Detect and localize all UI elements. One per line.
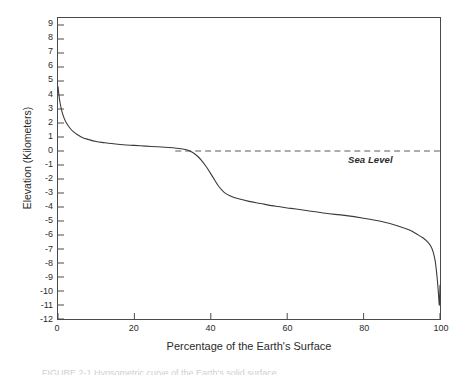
x-tick-label: 20: [129, 323, 139, 333]
x-tick-label: 60: [282, 323, 292, 333]
x-tick-label: 0: [54, 323, 59, 333]
y-tick-label: -9: [29, 273, 53, 282]
plot-area: Sea Level: [57, 17, 441, 320]
y-tick-label: -8: [29, 259, 53, 268]
y-tick-label: 9: [29, 19, 53, 28]
y-tick-label: -11: [29, 301, 53, 310]
y-tick-label: -12: [29, 315, 53, 324]
x-axis-tick-labels: 020406080100: [57, 323, 441, 337]
hypsometric-curve-line: [58, 87, 440, 306]
y-axis-title: Elevation (Kilometers): [21, 68, 33, 248]
y-tick-label: 7: [29, 47, 53, 56]
x-axis-ticks: [58, 313, 440, 319]
y-tick-label: -10: [29, 287, 53, 296]
x-tick-label: 80: [359, 323, 369, 333]
x-tick-label: 100: [433, 323, 448, 333]
sea-level-label: Sea Level: [348, 154, 393, 165]
hypsometric-curve-figure: 9876543210-1-2-3-4-5-6-7-8-9-10-11-12 El…: [0, 0, 465, 375]
y-axis-ticks: [58, 25, 64, 319]
plot-canvas: [58, 18, 440, 319]
y-tick-label: 8: [29, 33, 53, 42]
x-tick-label: 40: [206, 323, 216, 333]
x-axis-title: Percentage of the Earth's Surface: [57, 340, 441, 352]
figure-caption: FIGURE 2-1 Hypsometric curve of the Eart…: [42, 368, 442, 375]
